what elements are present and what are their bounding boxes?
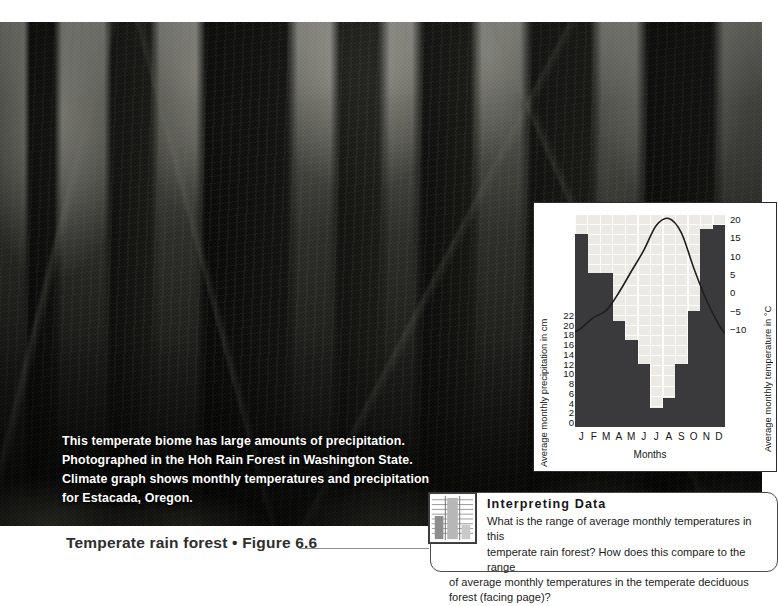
temp-tick-15: 15 xyxy=(730,233,756,243)
month-label-1: F xyxy=(588,431,601,442)
temp-tick--5: −5 xyxy=(730,307,756,317)
month-label-6: J xyxy=(650,431,663,442)
temperature-axis-ticks: 20151050−5−10 xyxy=(730,215,756,335)
precip-tick-0: 0 xyxy=(552,418,574,428)
temperature-line xyxy=(575,215,725,427)
temp-tick--10: −10 xyxy=(730,325,756,335)
temp-tick-20: 20 xyxy=(730,215,756,225)
climate-graph-panel: Average monthly precipitation in cm Aver… xyxy=(533,202,777,472)
month-label-10: N xyxy=(700,431,713,442)
month-label-11: D xyxy=(713,431,726,442)
interpreting-data-box: Interpreting Data What is the range of a… xyxy=(430,492,778,572)
interpreting-data-body: What is the range of average monthly tem… xyxy=(487,514,771,606)
month-axis-labels: JFMAMJJASOND xyxy=(575,431,725,442)
month-label-4: M xyxy=(625,431,638,442)
interpreting-line-4: forest (facing page)? xyxy=(449,590,771,605)
photo-caption-line-1: This temperate biome has large amounts o… xyxy=(62,432,492,451)
x-axis-title: Months xyxy=(575,449,725,460)
left-axis-title: Average monthly precipitation in cm xyxy=(538,287,549,467)
month-label-7: A xyxy=(663,431,676,442)
month-label-0: J xyxy=(575,431,588,442)
month-label-2: M xyxy=(600,431,613,442)
figure-title: Temperate rain forest • Figure 6.6 xyxy=(66,534,317,552)
precipitation-axis-ticks: 2220181614121086420 xyxy=(552,311,574,428)
temp-tick-5: 5 xyxy=(730,270,756,280)
figure-title-rule xyxy=(299,548,429,549)
interpreting-line-3: of average monthly temperatures in the t… xyxy=(449,575,771,590)
right-axis-title: Average monthly temperature in °C xyxy=(762,237,773,452)
temp-tick-10: 10 xyxy=(730,252,756,262)
month-label-9: O xyxy=(688,431,701,442)
month-label-5: J xyxy=(638,431,651,442)
plot-area xyxy=(575,215,725,443)
interpreting-line-2: temperate rain forest? How does this com… xyxy=(487,545,771,576)
month-label-3: A xyxy=(613,431,626,442)
photo-caption-line-2: Photographed in the Hoh Rain Forest in W… xyxy=(62,451,492,470)
photo-caption-line-3: Climate graph shows monthly temperatures… xyxy=(62,470,492,489)
temp-tick-0: 0 xyxy=(730,288,756,298)
interpreting-line-1: What is the range of average monthly tem… xyxy=(487,514,771,545)
precip-tick-6: 6 xyxy=(552,389,574,399)
month-label-8: S xyxy=(675,431,688,442)
plot-canvas xyxy=(575,215,725,427)
bar-chart-table-icon xyxy=(428,492,477,544)
interpreting-data-heading: Interpreting Data xyxy=(487,497,606,511)
